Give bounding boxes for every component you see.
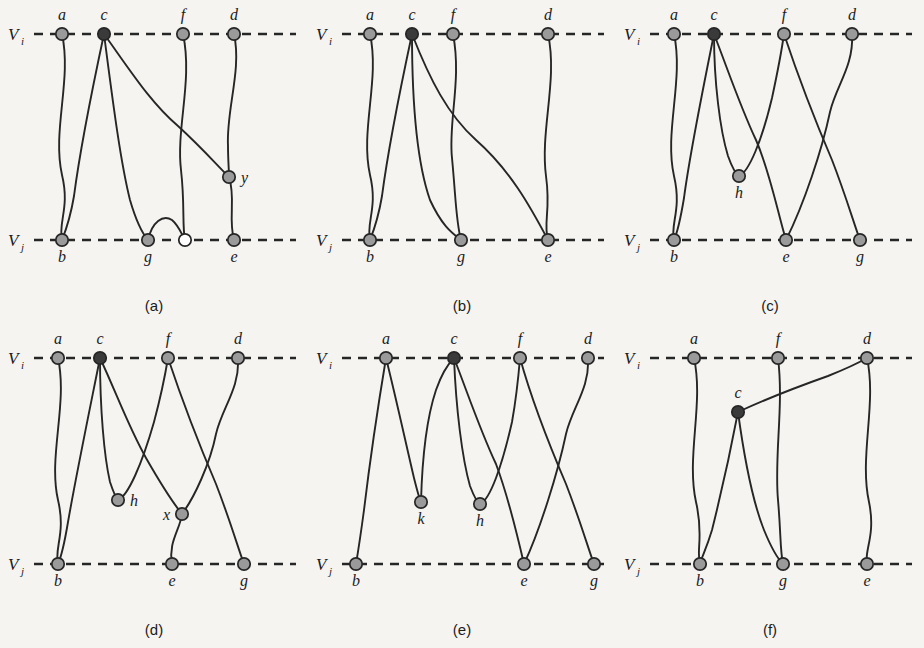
edge-a-b [356,358,386,564]
node-g[interactable] [238,558,250,570]
node-e[interactable] [780,234,792,246]
node-a[interactable] [56,28,68,40]
svg-text:j: j [19,241,24,253]
node-e[interactable] [166,558,178,570]
node-label-x: x [162,506,170,523]
node-f[interactable] [778,28,790,40]
node-label-h: h [130,492,138,509]
node-c[interactable] [98,28,110,40]
svg-text:V: V [624,25,637,44]
axis-label-vj: Vj [8,555,24,577]
node-a[interactable] [364,28,376,40]
node-f[interactable] [514,352,526,364]
node-e[interactable] [542,234,554,246]
node-label-b: b [696,572,704,589]
node-d[interactable] [846,28,858,40]
node-label-a: a [366,6,374,23]
panel-a: ViVjacfdbgey(a) [0,0,308,324]
node-d[interactable] [861,352,873,364]
edge-d-e [866,358,871,564]
node-b[interactable] [694,558,706,570]
node-e[interactable] [861,558,873,570]
node-b[interactable] [350,558,362,570]
node-c[interactable] [94,352,106,364]
edge-d-y [228,34,236,177]
node-g[interactable] [777,558,789,570]
edge-a-b [693,358,700,564]
svg-text:V: V [8,555,21,574]
node-d[interactable] [542,28,554,40]
node-d[interactable] [232,352,244,364]
node-b[interactable] [56,234,68,246]
node-c[interactable] [406,28,418,40]
node-label-b: b [54,572,62,589]
node-h[interactable] [112,494,124,506]
node-b[interactable] [52,558,64,570]
node-h[interactable] [733,170,745,182]
panel-f: ViVjafdcbge(f) [616,324,924,648]
edge-k-c [421,358,454,502]
node-label-c: c [100,6,107,23]
figure-container: ViVjacfdbgey(a)ViVjacfdbge(b)ViVjacfdbeg… [0,0,924,648]
node-y[interactable] [223,171,235,183]
svg-text:j: j [635,241,640,253]
node-b[interactable] [364,234,376,246]
node-label-h: h [735,184,743,201]
node-label-a: a [54,330,62,347]
edge-a-b [367,34,373,240]
node-g[interactable] [588,558,600,570]
panel-caption-e: (e) [308,621,616,638]
node-label-e: e [863,572,870,589]
node-c[interactable] [732,406,744,418]
edge-f-gp [180,34,186,240]
svg-text:i: i [637,359,640,371]
node-a[interactable] [52,352,64,364]
axis-label-vi: Vi [8,25,24,47]
node-label-g: g [457,248,465,266]
svg-text:V: V [624,231,637,250]
node-d[interactable] [582,352,594,364]
node-label-a: a [382,330,390,347]
node-e[interactable] [228,234,240,246]
svg-text:V: V [316,555,329,574]
panel-caption-b: (b) [308,297,616,314]
node-f[interactable] [447,28,459,40]
panel-e: ViVjacfdbegkh(e) [308,324,616,648]
node-a[interactable] [668,28,680,40]
axis-label-vj: Vj [624,231,640,253]
node-a[interactable] [380,352,392,364]
node-f[interactable] [177,28,189,40]
node-f[interactable] [162,352,174,364]
edge-h-f [480,358,520,504]
node-label-b: b [58,248,66,265]
node-c[interactable] [448,352,460,364]
node-label-g: g [590,572,598,590]
node-x[interactable] [176,508,188,520]
panel-b: ViVjacfdbge(b) [308,0,616,324]
axis-label-vj: Vj [8,231,24,253]
node-a[interactable] [688,352,700,364]
node-k[interactable] [415,496,427,508]
node-d[interactable] [228,28,240,40]
node-g[interactable] [142,234,154,246]
edge-a-b [671,34,677,240]
node-h[interactable] [474,498,486,510]
node-b[interactable] [668,234,680,246]
node-label-g: g [240,572,248,590]
edge-c-d [738,358,867,412]
node-gp[interactable] [179,234,191,246]
edge-c-b [700,412,738,564]
node-c[interactable] [708,28,720,40]
edge-f-g [777,358,783,564]
node-label-e: e [782,248,789,265]
svg-text:V: V [8,25,21,44]
svg-text:V: V [8,349,21,368]
panel-caption-d: (d) [0,621,308,638]
node-g[interactable] [455,234,467,246]
node-e[interactable] [518,558,530,570]
edge-d-x [182,358,238,514]
node-g[interactable] [854,234,866,246]
node-f[interactable] [772,352,784,364]
svg-text:V: V [624,349,637,368]
panel-caption-f: (f) [616,621,924,638]
